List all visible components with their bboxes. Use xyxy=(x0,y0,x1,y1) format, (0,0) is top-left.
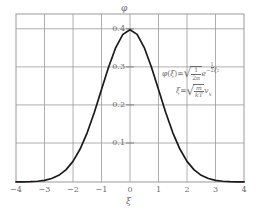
x-tick-label--2: −2 xyxy=(67,186,79,194)
y-tick-label-0.4: 0.4 xyxy=(103,25,125,33)
y-tick-label-0.3: 0.3 xyxy=(103,63,125,71)
annotation-xi-frac-den: kT xyxy=(194,92,204,98)
annotation-xi-radicand: mkT xyxy=(193,84,204,99)
y-axis-label: φ xyxy=(121,4,127,13)
x-tick-label--3: −3 xyxy=(39,186,51,194)
annotation-phi-exp-power: 2 xyxy=(217,68,220,73)
y-tick-label-0.1: 0.1 xyxy=(103,139,125,147)
x-axis-label: ξ xyxy=(126,197,131,206)
x-tick-label-1: 1 xyxy=(156,186,161,194)
y-tick-label-0.2: 0.2 xyxy=(103,101,125,109)
x-tick-label-3: 3 xyxy=(213,186,218,194)
annotation-phi-radicand: 12π xyxy=(190,66,201,81)
x-tick-label-2: 2 xyxy=(184,186,189,194)
annotation-phi-frac-den: 2π xyxy=(191,75,201,81)
gaussian-distribution-figure: −4 −3 −2 −1 0 1 2 3 4 0.1 0.2 0.3 0.4 φ … xyxy=(0,0,260,216)
annotation-xi-definition: ξ=√mkTvx xyxy=(176,84,212,99)
plot-canvas xyxy=(0,0,260,216)
annotation-phi-definition: φ(ξ)=√12πe−12ξ2 xyxy=(162,62,219,81)
annotation-xi-tail-sub: x xyxy=(208,91,211,97)
x-tick-label-4: 4 xyxy=(241,186,246,194)
x-tick-label--4: −4 xyxy=(10,186,22,194)
x-tick-label-0: 0 xyxy=(127,186,132,194)
x-tick-label--1: −1 xyxy=(96,186,108,194)
